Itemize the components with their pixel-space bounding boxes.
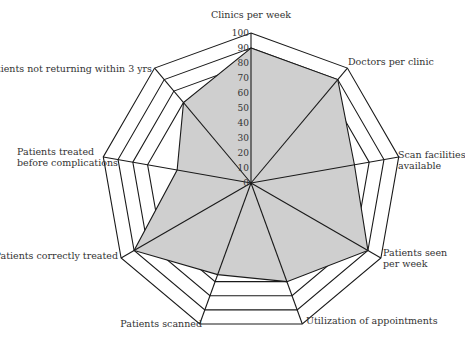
axis-label: Clinics per week	[211, 9, 291, 20]
scale-tick: 50	[238, 103, 250, 113]
axis-label: Utilization of appointments	[306, 315, 438, 326]
scale-tick: 100	[232, 28, 249, 38]
axis-label: Patients scanned	[120, 318, 202, 329]
axis-label: Patients seenper week	[383, 247, 447, 269]
scale-tick: 70	[238, 73, 250, 83]
scale-tick: 20	[238, 148, 250, 158]
axis-label: Patients not returning within 3 yrs	[0, 63, 152, 74]
axis-label: Patients correctly treated	[0, 250, 118, 261]
scale-tick: 80	[238, 58, 250, 68]
scale-tick: 10	[238, 163, 250, 173]
scale-tick: 40	[238, 118, 250, 128]
axis-label: Doctors per clinic	[348, 56, 434, 67]
axis-label: Patients treatedbefore complications	[17, 146, 118, 168]
scale-tick: 0	[243, 178, 249, 188]
scale-tick: 60	[238, 88, 250, 98]
scale-tick: 30	[238, 133, 250, 143]
scale-tick: 90	[238, 43, 250, 53]
radar-chart: 0102030405060708090100 Clinics per weekD…	[0, 0, 465, 341]
axis-label: Scan facilitiesavailable	[398, 149, 465, 171]
